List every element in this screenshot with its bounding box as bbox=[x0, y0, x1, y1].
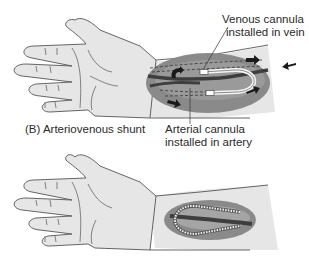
hand-top bbox=[14, 18, 156, 118]
arterial-label-line2: installed in artery bbox=[165, 136, 245, 149]
arterial-cannula-label: Arterial cannula installed in artery bbox=[165, 123, 245, 149]
venous-cannula-label: Venous cannula installed in vein bbox=[222, 13, 305, 39]
venous-label-line1: Venous cannula bbox=[222, 13, 305, 26]
external-arrow-icon bbox=[282, 62, 296, 70]
shunt-caption: (B) Arteriovenous shunt bbox=[25, 123, 145, 136]
fistula-illustration bbox=[14, 155, 278, 250]
venous-label-line2: installed in vein bbox=[222, 26, 305, 39]
arterial-label-line1: Arterial cannula bbox=[165, 123, 245, 136]
